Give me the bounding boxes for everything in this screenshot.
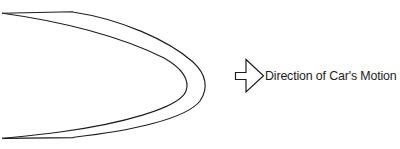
road-curve-diagram: Direction of Car's Motion: [0, 0, 400, 149]
direction-of-motion-label: Direction of Car's Motion: [265, 69, 397, 83]
diagram-canvas: Direction of Car's Motion: [0, 0, 400, 149]
